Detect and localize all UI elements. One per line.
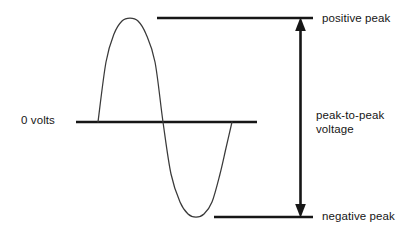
peak-to-peak-label-line-2: voltage [316, 123, 354, 135]
zero-volts-label: 0 volts [21, 114, 55, 128]
sine-wave-curve [98, 18, 232, 217]
peak-to-peak-label-line-1: peak-to-peak [316, 109, 384, 121]
peak-to-peak-voltage-label: peak-to-peakvoltage [316, 109, 384, 136]
waveform-diagram: 0 volts positive peak peak-to-peakvoltag… [0, 0, 414, 232]
negative-peak-label: negative peak [322, 210, 395, 224]
positive-peak-label: positive peak [322, 12, 390, 26]
